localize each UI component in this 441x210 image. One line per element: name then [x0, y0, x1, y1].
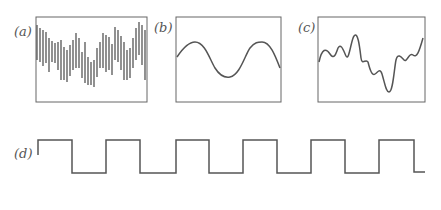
panel-c — [318, 17, 425, 102]
square-wave — [38, 140, 425, 173]
waveform-figure — [0, 0, 441, 210]
panel-b — [176, 17, 281, 102]
panel-a — [36, 17, 147, 102]
sine-wave — [177, 42, 280, 77]
irregular-wave — [319, 35, 423, 92]
panel-d — [38, 140, 425, 173]
noise-bars — [37, 22, 145, 87]
